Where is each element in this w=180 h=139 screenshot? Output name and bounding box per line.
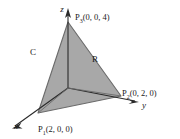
point-label-p1: P1(2, 0, 0) (38, 124, 73, 136)
point-label-p1-coords: (2, 0, 0) (46, 124, 73, 134)
y-axis-arrowhead (129, 100, 140, 105)
point-label-p2-coords: (0, 2, 0) (130, 88, 157, 98)
x-axis-label: x (13, 121, 18, 131)
point-label-p2: P2(0, 2, 0) (122, 88, 157, 100)
point-label-p3-coords: (0, 0, 4) (83, 12, 110, 22)
curve-label-c: C (30, 47, 36, 57)
y-axis-label: y (141, 100, 146, 110)
figure-container: x y z P3(0, 0, 4) P2(0, 2, 0) P1(2, 0, 0… (0, 0, 180, 139)
point-label-p3: P3(0, 0, 4) (75, 12, 110, 24)
coordinate-diagram: x y z P3(0, 0, 4) P2(0, 2, 0) P1(2, 0, 0… (0, 0, 180, 139)
shaded-region-polygon (38, 22, 121, 113)
z-axis-label: z (59, 4, 64, 14)
region-label-r: R (92, 54, 98, 64)
